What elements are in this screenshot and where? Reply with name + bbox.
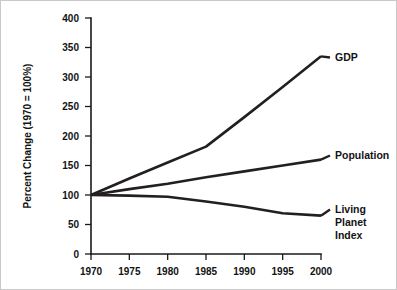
x-axis: 1970197519801985199019952000 bbox=[80, 254, 333, 277]
y-axis: 050100150200250300350400 Percent Change … bbox=[22, 13, 91, 260]
series-labels: GDPPopulationLivingPlanetIndex bbox=[335, 51, 389, 241]
line-chart: 050100150200250300350400 Percent Change … bbox=[1, 1, 397, 290]
y-tick-label-50: 50 bbox=[68, 219, 80, 230]
x-axis-tick-labels: 1970197519801985199019952000 bbox=[80, 266, 333, 277]
y-tick-label-300: 300 bbox=[62, 72, 79, 83]
series-label-living-planet-index-line-1: Living bbox=[335, 203, 366, 215]
x-tick-label-1980: 1980 bbox=[157, 266, 180, 277]
x-tick-label-1995: 1995 bbox=[272, 266, 295, 277]
y-tick-label-200: 200 bbox=[62, 131, 79, 142]
series-label-living-planet-index-line-2: Planet bbox=[335, 216, 367, 228]
x-tick-label-2000: 2000 bbox=[310, 266, 333, 277]
y-tick-label-100: 100 bbox=[62, 190, 79, 201]
x-axis-ticks bbox=[91, 254, 321, 260]
y-axis-tick-labels: 050100150200250300350400 bbox=[62, 13, 79, 260]
y-axis-title: Percent Change (1970 = 100%) bbox=[22, 64, 33, 209]
y-tick-label-350: 350 bbox=[62, 42, 79, 53]
x-tick-label-1990: 1990 bbox=[233, 266, 256, 277]
series-line-population bbox=[91, 160, 321, 195]
series-lines bbox=[91, 56, 321, 215]
series-leader-gdp bbox=[321, 56, 330, 57]
series-leader-living-planet-index bbox=[321, 210, 330, 216]
series-line-gdp bbox=[91, 56, 321, 195]
series-label-population: Population bbox=[335, 149, 389, 161]
series-leader-population bbox=[321, 156, 330, 160]
y-tick-label-0: 0 bbox=[73, 249, 79, 260]
x-tick-label-1985: 1985 bbox=[195, 266, 218, 277]
x-tick-label-1970: 1970 bbox=[80, 266, 103, 277]
chart-figure: 050100150200250300350400 Percent Change … bbox=[0, 0, 397, 290]
series-label-leaders bbox=[321, 56, 330, 215]
series-label-living-planet-index-line-3: Index bbox=[335, 229, 363, 241]
y-tick-label-250: 250 bbox=[62, 101, 79, 112]
x-tick-label-1975: 1975 bbox=[118, 266, 141, 277]
series-line-living-planet-index bbox=[91, 195, 321, 216]
series-label-gdp: GDP bbox=[335, 51, 358, 63]
y-tick-label-400: 400 bbox=[62, 13, 79, 24]
y-tick-label-150: 150 bbox=[62, 160, 79, 171]
y-axis-ticks bbox=[85, 18, 91, 254]
